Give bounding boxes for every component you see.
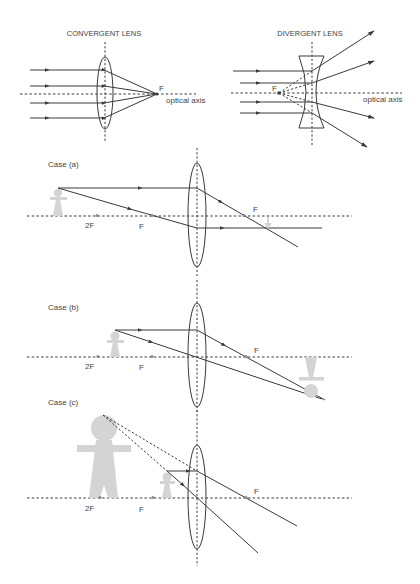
divergent-lens [299, 56, 324, 128]
lens-optics-diagram: CONVERGENT LENS F optical axis DIVERGENT… [0, 0, 420, 584]
f-marker-right [244, 496, 247, 499]
refracted-ray-through-f [197, 188, 298, 247]
convergent-lens-title: CONVERGENT LENS [67, 29, 141, 38]
refracted-ray-3 [312, 102, 374, 118]
2f-marker [95, 214, 98, 217]
ray-through-center [115, 330, 322, 399]
incident-ray-1 [30, 70, 157, 94]
convergent-lens-panel: CONVERGENT LENS F optical axis [20, 29, 206, 142]
case-c-panel: Case (c) 2F F F [27, 398, 352, 566]
f-label-right: F [253, 205, 258, 214]
f-label-left: F [139, 363, 144, 372]
f-label-right: F [254, 346, 259, 355]
f-label-left: F [139, 222, 144, 231]
incident-ray-3 [30, 94, 157, 103]
virtual-ray-3 [279, 93, 312, 102]
divergent-lens-panel: DIVERGENT LENS F optical axis [231, 29, 403, 147]
virtual-extension-refracted [103, 415, 197, 471]
case-b-label: Case (b) [48, 303, 79, 312]
optical-axis-label: optical axis [166, 96, 206, 105]
f-marker-right [244, 355, 247, 358]
ray-through-center [167, 471, 258, 553]
refracted-ray-2 [312, 61, 374, 83]
case-a-panel: Case (a) 2F F F [27, 148, 352, 276]
inverted-image-figure [299, 357, 324, 398]
virtual-ray-2 [279, 83, 312, 93]
2f-label: 2F [85, 504, 94, 513]
image-arrow [264, 217, 272, 229]
f-marker-left [150, 214, 153, 217]
2f-marker [96, 355, 99, 358]
focal-point-label: F [272, 84, 277, 93]
divergent-lens-title: DIVERGENT LENS [277, 29, 342, 38]
object-figure [107, 332, 124, 358]
focal-point-label: F [159, 84, 164, 93]
virtual-ray-4 [279, 93, 312, 113]
object-figure [50, 189, 67, 216]
case-a-label: Case (a) [48, 160, 79, 169]
case-c-label: Case (c) [48, 398, 79, 407]
virtual-ray-1 [279, 71, 312, 93]
refracted-ray-4 [312, 113, 367, 147]
2f-marker [98, 496, 101, 499]
virtual-image-figure [77, 415, 131, 498]
focal-point [277, 91, 281, 95]
f-marker-left [151, 496, 154, 499]
ray-through-front-focus [58, 188, 197, 228]
incident-ray-2 [30, 86, 157, 94]
2f-label: 2F [85, 362, 94, 371]
f-marker-left [150, 355, 153, 358]
optical-axis-label: optical axis [363, 95, 403, 104]
case-b-panel: Case (b) 2F F F [27, 280, 352, 412]
f-label-left: F [139, 505, 144, 514]
2f-label: 2F [85, 221, 94, 230]
f-label-right: F [254, 487, 259, 496]
f-marker-right [242, 214, 245, 217]
